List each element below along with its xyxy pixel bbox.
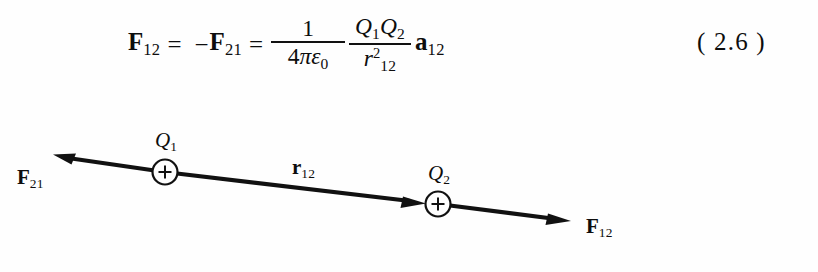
distance-squared-denominator: r212 [360, 45, 401, 74]
vector-f12 [450, 206, 571, 226]
vector-r12-label-subscript: 12 [301, 166, 315, 181]
denominator-pi: π [299, 43, 311, 69]
equation-number: ( 2.6 ) [697, 28, 766, 56]
vector-f21-arrowhead [53, 154, 76, 165]
equation-expression: F12 = − F21 = 1 4πε0 Q1Q2 r212 a12 [128, 14, 445, 74]
vector-r12-shaft [177, 174, 410, 202]
vector-f12-arrowhead [546, 214, 572, 226]
force-f12-symbol: F [128, 28, 143, 55]
vector-r12-label: r12 [292, 157, 315, 180]
figure-page: F12 = − F21 = 1 4πε0 Q1Q2 r212 a12 ( 2.6… [0, 0, 818, 272]
force-f21-subscript: 21 [225, 40, 242, 59]
numerator-q2-subscript: 2 [397, 25, 405, 42]
minus-sign: − [195, 32, 209, 57]
unit-vector-subscript: 12 [428, 40, 445, 59]
vector-f21 [53, 154, 165, 173]
unit-vector-term: a12 [415, 29, 445, 59]
vector-r12 [177, 174, 426, 209]
charge-q2-marker [426, 192, 451, 217]
charge-q1-marker [153, 160, 178, 185]
coulomb-constant-fraction: 1 4πε0 [271, 16, 345, 73]
charge-q1-label: Q1 [155, 130, 177, 153]
vector-f12-label-subscript: 12 [599, 225, 613, 240]
vector-f12-label: F12 [586, 216, 613, 239]
vector-r12-label-symbol: r [292, 155, 301, 179]
vector-f21-shaft [68, 158, 165, 172]
force-f12-term: F12 [128, 29, 160, 59]
equals-sign-1: = [167, 32, 181, 57]
charge-product-numerator: Q1Q2 [351, 14, 409, 43]
force-f12-subscript: 12 [143, 40, 160, 59]
unit-vector-symbol: a [415, 28, 428, 55]
vector-f12-label-symbol: F [586, 214, 599, 238]
denominator-r-symbol: r [364, 45, 373, 71]
numerator-q1-symbol: Q [355, 13, 372, 39]
vector-r12-arrowhead [401, 197, 427, 209]
charge-q2-label: Q2 [428, 163, 450, 186]
denominator-four: 4 [288, 43, 300, 69]
equation-row: F12 = − F21 = 1 4πε0 Q1Q2 r212 a12 ( 2.6… [0, 14, 818, 94]
charge-q1-circle [153, 160, 178, 185]
charge-q2-label-subscript: 2 [443, 172, 450, 187]
vector-f21-label-symbol: F [17, 165, 30, 189]
charge-q2-circle [426, 192, 451, 217]
vector-f21-label: F21 [17, 167, 44, 190]
vector-f21-label-subscript: 21 [30, 176, 44, 191]
denominator-epsilon-subscript: 0 [320, 55, 328, 72]
denominator-r-subscript: 12 [380, 57, 396, 74]
charge-q1-label-symbol: Q [155, 128, 170, 152]
charge-q1-label-subscript: 1 [170, 139, 177, 154]
coulomb-constant-denominator: 4πε0 [284, 43, 333, 72]
force-f21-symbol: F [210, 28, 225, 55]
equals-sign-2: = [249, 32, 263, 57]
vector-f12-shaft [450, 206, 556, 220]
coulomb-constant-numerator: 1 [298, 16, 318, 42]
force-f21-term: F21 [210, 29, 242, 59]
numerator-q2-symbol: Q [380, 13, 397, 39]
charge-distance-fraction: Q1Q2 r212 [349, 14, 411, 74]
numerator-q1-subscript: 1 [372, 25, 380, 42]
charge-q2-label-symbol: Q [428, 161, 443, 185]
